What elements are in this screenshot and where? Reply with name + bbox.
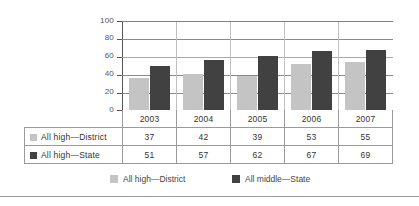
table-row-label-text: All high—State [41, 150, 100, 160]
y-tick-label-80: 80 [84, 34, 114, 42]
table-header-2007: 2007 [339, 110, 393, 128]
bar-group-2006 [284, 22, 338, 111]
y-tick-label-100: 100 [84, 17, 114, 25]
table-cell-state-2003: 51 [123, 146, 177, 164]
table-header-2004: 2004 [177, 110, 231, 128]
table-header-2003: 2003 [123, 110, 177, 128]
legend-swatch-state-icon [232, 175, 240, 183]
table-header-corner [25, 110, 123, 128]
table-cell-state-2007: 69 [339, 146, 393, 164]
bar-state-2005 [258, 56, 278, 111]
y-tick-label-20: 20 [84, 88, 114, 96]
table-cell-district-2003: 37 [123, 128, 177, 146]
series-swatch-state-icon [30, 152, 37, 159]
bar-chart-figure: 100 80 60 40 20 0 [0, 0, 419, 206]
chart-legend: All high—District All middle—State [110, 174, 370, 186]
bar-state-2006 [312, 51, 332, 111]
table-header-2005: 2005 [231, 110, 285, 128]
legend-swatch-district-icon [110, 175, 118, 183]
plot-area [122, 21, 393, 111]
bar-district-2005 [237, 76, 257, 111]
series-swatch-district-icon [30, 134, 37, 141]
bar-district-2003 [129, 78, 149, 111]
bar-district-2006 [291, 64, 311, 111]
y-tick-label-60: 60 [84, 52, 114, 60]
table-row-label-text: All high—District [41, 132, 107, 142]
legend-item-district: All high—District [110, 174, 185, 184]
table-cell-district-2005: 39 [231, 128, 285, 146]
bar-group-2007 [338, 22, 392, 111]
bar-state-2007 [366, 50, 386, 111]
bar-state-2003 [150, 66, 170, 111]
table-cell-district-2004: 42 [177, 128, 231, 146]
table-cell-state-2006: 67 [285, 146, 339, 164]
table-cell-state-2005: 62 [231, 146, 285, 164]
bar-group-2003 [122, 22, 176, 111]
y-tick-label-40: 40 [84, 70, 114, 78]
table-cell-district-2006: 53 [285, 128, 339, 146]
table-cell-district-2007: 55 [339, 128, 393, 146]
data-table: 2003 2004 2005 2006 2007 All high—Distri… [24, 110, 393, 164]
table-row-label-district: All high—District [25, 128, 123, 146]
table-header-2006: 2006 [285, 110, 339, 128]
table-row: All high—State 51 57 62 67 69 [25, 146, 393, 164]
bar-district-2004 [183, 74, 203, 111]
table-header-row: 2003 2004 2005 2006 2007 [25, 110, 393, 128]
legend-label-district: All high—District [123, 174, 185, 184]
table-cell-state-2004: 57 [177, 146, 231, 164]
bar-group-2004 [176, 22, 230, 111]
legend-item-state: All middle—State [232, 174, 310, 184]
bottom-divider [0, 196, 419, 197]
bar-state-2004 [204, 60, 224, 111]
legend-label-state: All middle—State [245, 174, 310, 184]
bar-district-2007 [345, 62, 365, 111]
table-row-label-state: All high—State [25, 146, 123, 164]
bar-group-2005 [230, 22, 284, 111]
table-row: All high—District 37 42 39 53 55 [25, 128, 393, 146]
